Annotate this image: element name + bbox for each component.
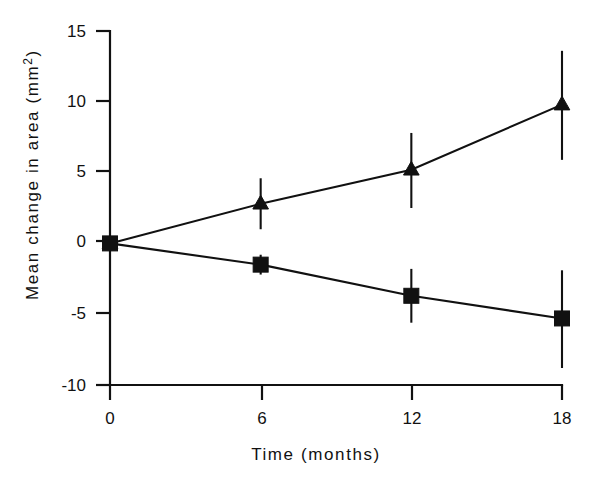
x-tick-label-12: 12 [403,409,422,428]
x-axis-tick-labels: 0 6 12 18 [105,409,571,428]
y-axis-title-text: Mean change in area (mm [23,65,42,300]
x-tick-label-6: 6 [257,409,266,428]
y-axis-tick-labels: 15 10 5 0 -5 -10 [61,22,86,395]
y-axis-ticks [96,31,110,385]
x-tick-label-0: 0 [105,409,114,428]
y-tick-label-neg5: -5 [71,304,86,323]
series-increase-series [102,51,570,249]
y-tick-label-15: 15 [67,22,86,41]
data-point-marker [404,288,419,303]
series-line [110,243,562,318]
data-point-marker [103,236,118,251]
y-axis-title: Mean change in area (mm2) [21,49,42,300]
y-axis-title-superscript: 2 [21,56,35,64]
y-tick-label-neg10: -10 [61,376,86,395]
x-axis-title: Time (months) [251,445,381,464]
data-point-marker [554,96,570,110]
data-point-marker [555,311,570,326]
y-tick-label-5: 5 [77,162,86,181]
x-tick-label-18: 18 [553,409,572,428]
x-axis-ticks [110,385,562,400]
data-point-marker [253,257,268,272]
series-decrease-series [103,236,570,368]
series-line [110,105,562,244]
y-tick-label-10: 10 [67,92,86,111]
chart-figure: Mean change in area (mm2) 15 10 5 0 -5 -… [0,0,590,478]
chart-plot-area: Mean change in area (mm2) 15 10 5 0 -5 -… [0,0,590,478]
y-axis-title-close: ) [23,49,42,56]
data-series-layer [102,51,570,368]
y-tick-label-0: 0 [77,232,86,251]
